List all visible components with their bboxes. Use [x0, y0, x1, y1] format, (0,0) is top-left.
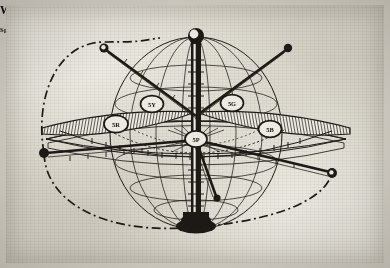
- color-tree-illustration: 5R 5Y 5G 5B 5P: [0, 0, 390, 268]
- node-5P: 5P: [185, 131, 207, 147]
- svg-text:5R: 5R: [112, 121, 120, 128]
- svg-text:5B: 5B: [266, 126, 274, 133]
- node-5G: 5G: [221, 95, 244, 112]
- svg-text:5Y: 5Y: [148, 101, 156, 108]
- node-5B: 5B: [259, 121, 282, 138]
- node-5Y: 5Y: [141, 96, 164, 113]
- svg-text:5P: 5P: [192, 136, 199, 143]
- figure-page: 5R 5Y 5G 5B 5P White Black Yellow Re: [0, 0, 390, 268]
- node-5R: 5R: [104, 115, 128, 132]
- svg-text:5G: 5G: [228, 100, 236, 107]
